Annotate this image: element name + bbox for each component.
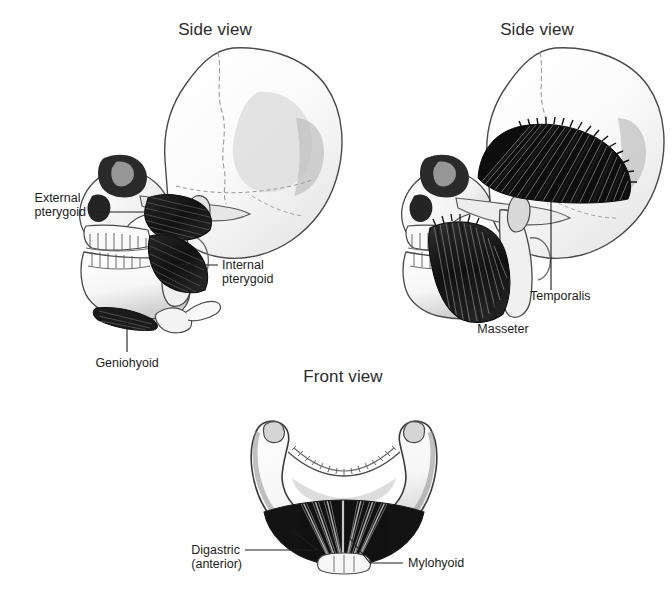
right-skull-illustration xyxy=(402,48,664,328)
label-external-pterygoid: External pterygoid xyxy=(35,191,86,219)
label-internal-pterygoid-line1: Internal xyxy=(222,258,273,272)
front-left-condyle xyxy=(263,422,284,443)
front-mandible-illustration xyxy=(251,421,437,574)
front-panel-title: Front view xyxy=(303,367,382,387)
left-hyoid-horn xyxy=(186,301,221,320)
right-panel-title: Side view xyxy=(500,20,574,40)
front-teeth xyxy=(292,446,396,475)
label-internal-pterygoid: Internal pterygoid xyxy=(222,258,273,286)
label-internal-pterygoid-line2: pterygoid xyxy=(222,272,273,286)
left-maxilla xyxy=(84,225,152,250)
label-external-pterygoid-line2: pterygoid xyxy=(35,205,86,219)
label-masseter: Masseter xyxy=(477,322,528,336)
front-right-condyle xyxy=(404,422,425,443)
left-panel-title: Side view xyxy=(178,20,252,40)
anatomy-figure: Side view Side view Front view External … xyxy=(0,0,672,590)
label-temporalis: Temporalis xyxy=(530,289,590,303)
label-geniohyoid: Geniohyoid xyxy=(95,356,158,370)
label-digastric-line1: Digastric xyxy=(191,543,242,557)
label-digastric-line2: (anterior) xyxy=(191,557,242,571)
label-digastric: Digastric (anterior) xyxy=(191,543,242,571)
label-mylohyoid: Mylohyoid xyxy=(408,556,464,570)
left-skull-illustration xyxy=(80,48,342,333)
label-external-pterygoid-line1: External xyxy=(35,191,86,205)
